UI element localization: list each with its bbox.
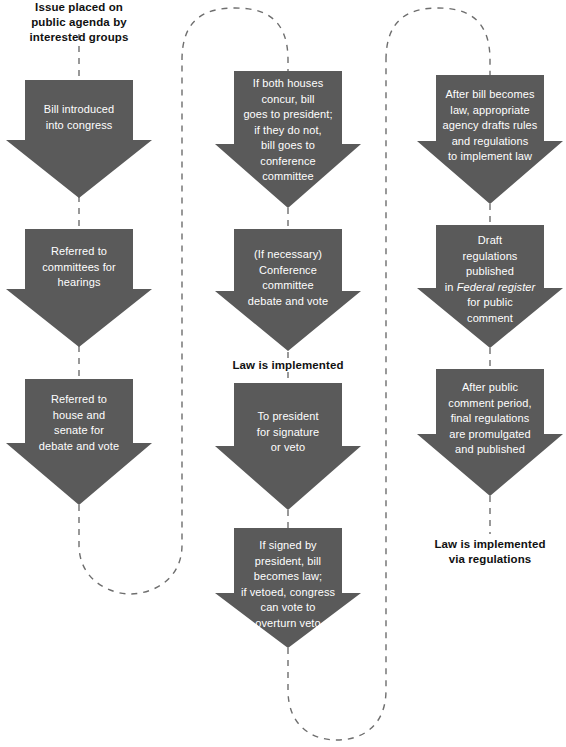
arrow-conference-committee-label: (If necessary) Conference committee deba… xyxy=(215,247,361,309)
arrow-conference-committee: (If necessary) Conference committee deba… xyxy=(215,229,361,351)
arrow-referred-committees: Referred to committees for hearings xyxy=(6,229,152,347)
arrow-agency-drafts-rules: After bill becomes law, appropriate agen… xyxy=(417,75,563,204)
arrow-signed-or-vetoed: If signed by president, bill becomes law… xyxy=(215,528,361,648)
arrow-draft-regulations-published-label: Draft regulations published in Federal r… xyxy=(417,233,563,326)
arrow-both-houses-concur-label: If both houses concur, bill goes to pres… xyxy=(215,76,361,185)
label-law-is-implemented: Law is implemented xyxy=(215,358,361,373)
down-arrow-icon xyxy=(6,80,152,198)
connector-col2to3-arc xyxy=(386,8,490,76)
arrow-bill-introduced: Bill introduced into congress xyxy=(6,80,152,198)
arrow-both-houses-concur: If both houses concur, bill goes to pres… xyxy=(215,71,361,208)
arrow-draft-regulations-published: Draft regulations published in Federal r… xyxy=(417,225,563,348)
arrow-agency-drafts-rules-label: After bill becomes law, appropriate agen… xyxy=(417,87,563,165)
arrow-bill-introduced-label: Bill introduced into congress xyxy=(6,102,152,133)
label-law-implemented-via-regulations: Law is implemented via regulations xyxy=(417,537,563,567)
arrow-final-regulations-label: After public comment period, final regul… xyxy=(417,380,563,458)
arrow-referred-house-senate-label: Referred to house and senate for debate … xyxy=(6,392,152,454)
arrow-referred-house-senate: Referred to house and senate for debate … xyxy=(6,379,152,505)
page-title: Issue placed on public agenda by interes… xyxy=(12,0,146,45)
arrow-final-regulations: After public comment period, final regul… xyxy=(417,369,563,496)
arrow-to-president: To president for signature or veto xyxy=(215,383,361,510)
arrow-signed-or-vetoed-label: If signed by president, bill becomes law… xyxy=(215,538,361,631)
arrow-referred-committees-label: Referred to committees for hearings xyxy=(6,244,152,291)
flowchart-canvas: Issue placed on public agenda by interes… xyxy=(0,0,566,747)
arrow-to-president-label: To president for signature or veto xyxy=(215,409,361,456)
